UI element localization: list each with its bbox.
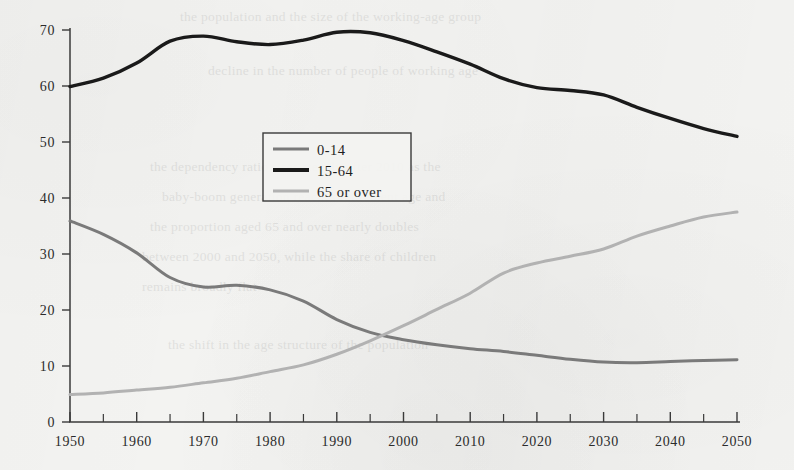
x-axis-tick-labels: 1950196019701980199020002010202020302040… — [55, 434, 752, 449]
y-axis-tick-label: 40 — [40, 191, 55, 206]
y-axis-ticks — [62, 30, 70, 422]
x-axis-tick-label: 1960 — [121, 434, 151, 449]
x-axis-tick-label: 1970 — [188, 434, 218, 449]
chart-page: the population and the size of the worki… — [0, 0, 794, 470]
y-axis-tick-label: 30 — [40, 247, 55, 262]
chart-series-lines — [70, 32, 737, 395]
x-axis-tick-label: 2010 — [455, 434, 485, 449]
y-axis-tick-label: 10 — [40, 359, 55, 374]
series-line-65-or-over — [70, 212, 737, 395]
chart-legend: 0-1415-6465 or over — [263, 133, 411, 201]
y-axis-tick-label: 50 — [40, 135, 55, 150]
x-axis-tick-label: 1980 — [255, 434, 285, 449]
legend-label-65-or-over: 65 or over — [317, 184, 382, 200]
x-axis-tick-label: 2050 — [722, 434, 752, 449]
legend-label-15-64: 15-64 — [317, 163, 354, 179]
y-axis-tick-label: 70 — [40, 23, 55, 38]
x-axis-tick-label: 2030 — [588, 434, 618, 449]
y-axis-tick-label: 60 — [40, 79, 55, 94]
y-axis-tick-labels: 010203040506070 — [40, 23, 55, 430]
population-age-structure-line-chart: 010203040506070 195019601970198019902000… — [0, 0, 794, 470]
x-axis-tick-label: 2020 — [522, 434, 552, 449]
x-axis-tick-label: 2040 — [655, 434, 685, 449]
y-axis-tick-label: 20 — [40, 303, 55, 318]
y-axis-tick-label: 0 — [47, 415, 55, 430]
x-axis-tick-label: 2000 — [388, 434, 418, 449]
x-axis-tick-label: 1990 — [322, 434, 352, 449]
x-axis-ticks — [70, 412, 737, 422]
series-line-15-64 — [70, 32, 737, 137]
legend-label-0-14: 0-14 — [317, 142, 346, 158]
series-line-0-14 — [70, 221, 737, 363]
x-axis-tick-label: 1950 — [55, 434, 85, 449]
